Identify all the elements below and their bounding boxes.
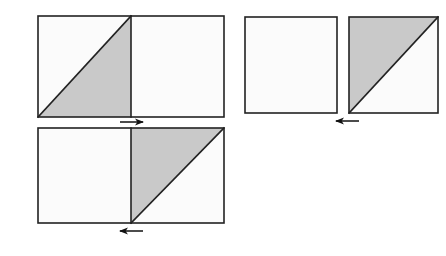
top-left-double-square-right-cell-fill bbox=[131, 16, 224, 117]
bottom-left-double-square-left-cell-fill bbox=[38, 128, 131, 223]
bottom-left-double-square bbox=[38, 128, 224, 223]
right-plain-square bbox=[245, 17, 337, 113]
figure-container: Square dissection transformation diagram bbox=[0, 0, 446, 256]
geometry-diagram bbox=[0, 0, 446, 256]
right-plain-square-only-cell-fill bbox=[245, 17, 337, 113]
top-left-double-square bbox=[38, 16, 224, 117]
right-split-square bbox=[349, 17, 438, 113]
